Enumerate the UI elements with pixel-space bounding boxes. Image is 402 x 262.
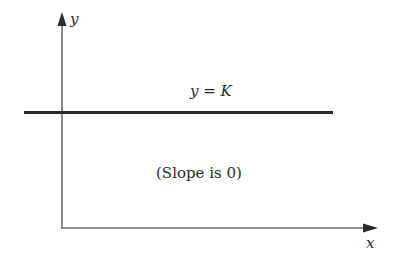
line-equation-label: y = K [190,82,232,100]
diagram-canvas [0,0,402,262]
x-axis-label: x [366,234,374,252]
y-axis-arrow-icon [58,12,67,26]
horizontal-line-diagram: y x y = K (Slope is 0) [0,0,402,262]
x-axis-arrow-icon [363,224,378,233]
y-axis-label: y [70,10,78,28]
slope-note: (Slope is 0) [156,164,242,182]
